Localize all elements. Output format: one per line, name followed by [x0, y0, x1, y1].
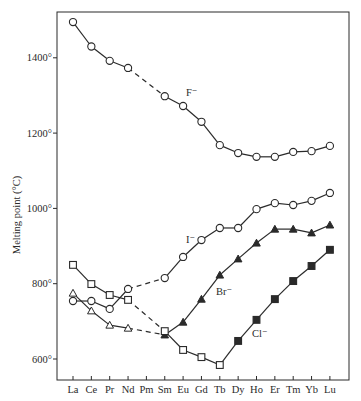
square-marker [235, 338, 242, 345]
square-marker [125, 296, 132, 303]
x-tick-label: Sm [158, 384, 172, 395]
x-tick-label: Nd [122, 384, 136, 395]
circle-marker [235, 224, 242, 231]
x-tick-label: Dy [232, 384, 246, 395]
series-label: Cl⁻ [252, 328, 267, 339]
series-label: F⁻ [186, 87, 197, 98]
square-marker [253, 316, 260, 323]
circle-marker [69, 297, 76, 304]
series-label: I⁻ [186, 234, 195, 245]
x-tick-label: Ho [250, 384, 263, 395]
y-tick-label: 600° [32, 354, 52, 365]
square-marker [88, 281, 95, 288]
circle-marker [271, 200, 278, 207]
series-segment [73, 22, 91, 46]
y-tick-label: 800° [32, 278, 52, 289]
x-tick-label: Pr [105, 384, 115, 395]
plot-frame [57, 12, 349, 380]
series-segment [201, 122, 219, 145]
series-segment [165, 257, 183, 278]
y-tick-label: 1000° [27, 203, 52, 214]
circle-marker [106, 57, 113, 64]
series-dashed-segment [128, 278, 165, 289]
y-tick-label: 1400° [27, 52, 52, 63]
square-marker [290, 278, 297, 285]
series-group [69, 18, 334, 368]
circle-marker [308, 197, 315, 204]
circle-marker [198, 118, 205, 125]
x-tick-label: Yb [305, 384, 318, 395]
circle-marker [326, 189, 333, 196]
circle-marker [216, 224, 223, 231]
y-tick-label: 1200° [27, 128, 52, 139]
circle-marker [235, 149, 242, 156]
circle-marker [88, 43, 95, 50]
circle-marker [290, 148, 297, 155]
series-dashed-segment [128, 300, 165, 331]
melting-point-chart: 600°800°1000°1200°1400° LaCePrNdPmSmEuGd… [0, 0, 361, 401]
series-dashed-segment [128, 328, 165, 335]
x-axis: LaCePrNdPmSmEuGdTbDyHoErTmYbLu [67, 376, 336, 395]
x-tick-label: Er [270, 384, 280, 395]
circle-marker [216, 142, 223, 149]
square-marker [216, 362, 223, 369]
triangle-marker [69, 289, 77, 296]
series-0 [69, 18, 333, 160]
circle-marker [198, 236, 205, 243]
y-axis: 600°800°1000°1200°1400° [27, 52, 57, 364]
square-marker [271, 296, 278, 303]
circle-marker [180, 102, 187, 109]
x-tick-label: Ce [86, 384, 98, 395]
square-marker [198, 354, 205, 361]
circle-marker [253, 206, 260, 213]
circle-marker [124, 285, 131, 292]
square-marker [106, 292, 113, 299]
y-axis-title: Melting point (°C) [11, 175, 23, 254]
circle-marker [124, 64, 131, 71]
x-tick-label: Eu [177, 384, 189, 395]
x-tick-label: Gd [195, 384, 209, 395]
circle-marker [326, 142, 333, 149]
circle-marker [106, 305, 113, 312]
x-tick-label: La [67, 384, 78, 395]
square-marker [308, 263, 315, 270]
circle-marker [88, 297, 95, 304]
circle-marker [290, 201, 297, 208]
circle-marker [308, 148, 315, 155]
x-tick-label: Tb [214, 384, 226, 395]
circle-marker [161, 274, 168, 281]
triangle-marker [326, 221, 334, 228]
square-marker [70, 261, 77, 268]
triangle-marker [253, 239, 261, 246]
series-dashed-segment [128, 68, 165, 96]
square-marker [180, 347, 187, 354]
square-marker [161, 328, 168, 335]
series-label: Br⁻ [216, 286, 232, 297]
plot-border [57, 12, 349, 380]
circle-marker [253, 153, 260, 160]
x-tick-label: Tm [286, 384, 301, 395]
x-tick-label: Lu [324, 384, 336, 395]
circle-marker [69, 18, 76, 25]
square-marker [327, 246, 334, 253]
circle-marker [180, 253, 187, 260]
x-tick-label: Pm [139, 384, 153, 395]
circle-marker [161, 93, 168, 100]
circle-marker [271, 153, 278, 160]
